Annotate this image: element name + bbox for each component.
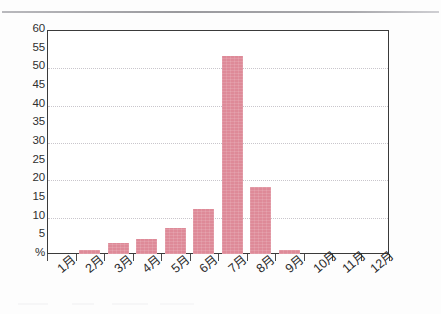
scan-artifact: [160, 303, 194, 305]
scan-artifact: [112, 303, 148, 305]
y-axis-label-50: 50: [33, 59, 45, 72]
bar-7月: [222, 56, 243, 254]
y-axis-label-55: 55: [33, 41, 45, 54]
y-axis-label-15: 15: [33, 190, 45, 203]
y-axis-label-40: 40: [33, 97, 45, 110]
bar-cell-8月: [247, 30, 276, 254]
y-axis-label-35: 35: [33, 115, 45, 128]
bar-cell-12月: [361, 30, 390, 254]
bar-6月: [193, 209, 214, 254]
bar-cell-10月: [304, 30, 333, 254]
x-axis-labels: 1月2月3月4月5月6月7月8月9月10月11月12月: [47, 258, 389, 308]
bar-cell-6月: [190, 30, 219, 254]
bar-cell-1月: [47, 30, 76, 254]
y-axis-label-5: 5: [39, 227, 45, 240]
bar-cell-9月: [275, 30, 304, 254]
bar-cell-4月: [133, 30, 162, 254]
bar-cell-7月: [218, 30, 247, 254]
chart-page: %51015202530354045505560 1月2月3月4月5月6月7月8…: [0, 0, 441, 314]
y-axis-label-10: 10: [33, 209, 45, 222]
bar-cell-3月: [104, 30, 133, 254]
page-top-rule: [2, 11, 439, 13]
bar-series: [47, 30, 389, 254]
y-axis-label-30: 30: [33, 134, 45, 147]
bar-cell-2月: [76, 30, 105, 254]
bar-8月: [250, 187, 271, 254]
y-axis-labels: %51015202530354045505560: [19, 22, 45, 262]
bar-cell-11月: [332, 30, 361, 254]
y-axis-label-20: 20: [33, 171, 45, 184]
y-axis-label-25: 25: [33, 153, 45, 166]
y-axis-label-45: 45: [33, 78, 45, 91]
scan-artifact: [72, 303, 94, 305]
scan-artifact: [18, 303, 48, 305]
y-axis-label-60: 60: [33, 22, 45, 35]
bar-cell-5月: [161, 30, 190, 254]
y-axis-label-%: %: [35, 246, 45, 259]
